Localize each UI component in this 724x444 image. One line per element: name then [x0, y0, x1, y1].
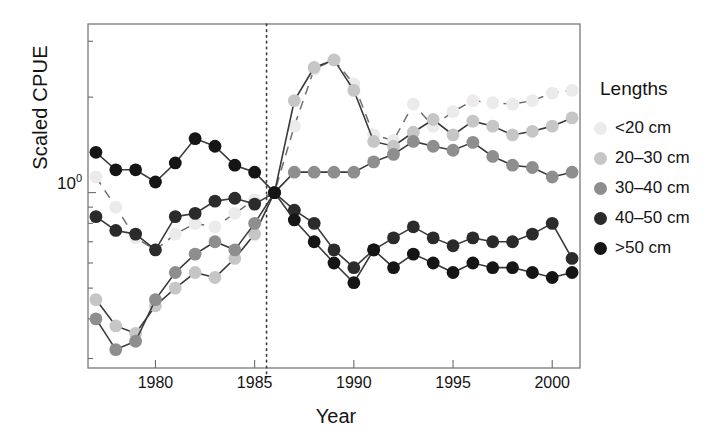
data-point — [169, 266, 182, 279]
data-point — [169, 282, 182, 295]
data-point — [526, 125, 539, 138]
data-point — [427, 113, 440, 126]
data-point — [228, 159, 241, 172]
data-point — [288, 166, 301, 179]
data-point — [149, 293, 162, 306]
data-point — [228, 243, 241, 256]
data-point — [129, 228, 142, 241]
legend-item[interactable]: <20 cm — [594, 113, 724, 143]
data-point — [209, 140, 222, 153]
x-axis-tick-label: 1980 — [125, 374, 185, 392]
data-point — [169, 228, 182, 241]
plot-frame — [88, 24, 580, 368]
data-point — [109, 163, 122, 176]
data-point — [367, 135, 380, 148]
data-point — [466, 94, 479, 107]
data-point — [526, 94, 539, 107]
legend-item[interactable]: 20–30 cm — [594, 143, 724, 173]
data-point — [308, 166, 321, 179]
data-point — [486, 96, 499, 109]
legend-item-label: 30–40 cm — [615, 178, 690, 198]
data-point — [308, 235, 321, 248]
data-point — [427, 231, 440, 244]
data-point — [209, 271, 222, 284]
series-20-30-cm — [90, 54, 579, 340]
data-point — [328, 243, 341, 256]
legend-marker-icon — [594, 152, 607, 165]
figure: Scaled CPUE 100 19801985199019952000 Yea… — [0, 0, 724, 444]
data-point — [387, 148, 400, 161]
data-point — [328, 257, 341, 270]
data-point — [566, 84, 579, 97]
data-point — [109, 224, 122, 237]
data-point — [228, 207, 241, 220]
data-point — [347, 261, 360, 274]
data-point — [427, 257, 440, 270]
data-point — [506, 235, 519, 248]
legend: Lengths <20 cm20–30 cm30–40 cm40–50 cm>5… — [594, 78, 724, 263]
data-point — [387, 231, 400, 244]
legend-item[interactable]: 30–40 cm — [594, 173, 724, 203]
legend-items: <20 cm20–30 cm30–40 cm40–50 cm>50 cm — [594, 113, 724, 263]
data-point — [546, 87, 559, 100]
legend-title: Lengths — [600, 78, 724, 100]
series-line — [96, 193, 572, 268]
x-axis-tick-label: 1990 — [324, 374, 384, 392]
data-point — [447, 144, 460, 157]
data-point — [546, 120, 559, 133]
data-point — [90, 146, 103, 159]
data-point — [506, 129, 519, 142]
legend-marker-icon — [594, 212, 607, 225]
data-point — [248, 217, 261, 230]
data-point — [109, 343, 122, 356]
data-point — [407, 135, 420, 148]
data-point — [566, 166, 579, 179]
data-point — [189, 266, 202, 279]
data-point — [169, 210, 182, 223]
data-point — [109, 201, 122, 214]
data-point — [347, 166, 360, 179]
legend-item[interactable]: >50 cm — [594, 233, 724, 263]
series-line — [96, 60, 572, 333]
data-point — [129, 163, 142, 176]
series-line — [96, 60, 572, 250]
data-point — [189, 248, 202, 261]
data-point — [228, 192, 241, 205]
data-point — [407, 248, 420, 261]
x-axis-tick-label: 1985 — [225, 374, 285, 392]
data-point — [347, 84, 360, 97]
data-point — [328, 54, 341, 67]
data-point — [90, 312, 103, 325]
data-point — [328, 166, 341, 179]
data-point — [248, 166, 261, 179]
data-point — [90, 210, 103, 223]
series--20-cm — [90, 54, 579, 257]
data-point — [526, 266, 539, 279]
data-point — [90, 171, 103, 184]
data-point — [347, 276, 360, 289]
series--50-cm — [90, 132, 579, 289]
data-point — [407, 98, 420, 111]
data-point — [506, 261, 519, 274]
legend-marker-icon — [594, 182, 607, 195]
data-point — [248, 198, 261, 211]
data-point — [149, 243, 162, 256]
data-point — [566, 111, 579, 124]
data-point — [447, 266, 460, 279]
legend-item[interactable]: 40–50 cm — [594, 203, 724, 233]
data-point — [466, 257, 479, 270]
data-point — [109, 320, 122, 333]
data-point — [149, 176, 162, 189]
data-point — [486, 261, 499, 274]
x-axis-tick-label: 2000 — [522, 374, 582, 392]
data-point — [427, 140, 440, 153]
data-point — [189, 207, 202, 220]
data-point — [209, 220, 222, 233]
legend-item-label: 40–50 cm — [615, 208, 690, 228]
data-point — [466, 115, 479, 128]
legend-item-label: <20 cm — [615, 118, 671, 138]
data-point — [407, 220, 420, 233]
data-point — [506, 159, 519, 172]
data-point — [308, 61, 321, 74]
data-point — [486, 120, 499, 133]
